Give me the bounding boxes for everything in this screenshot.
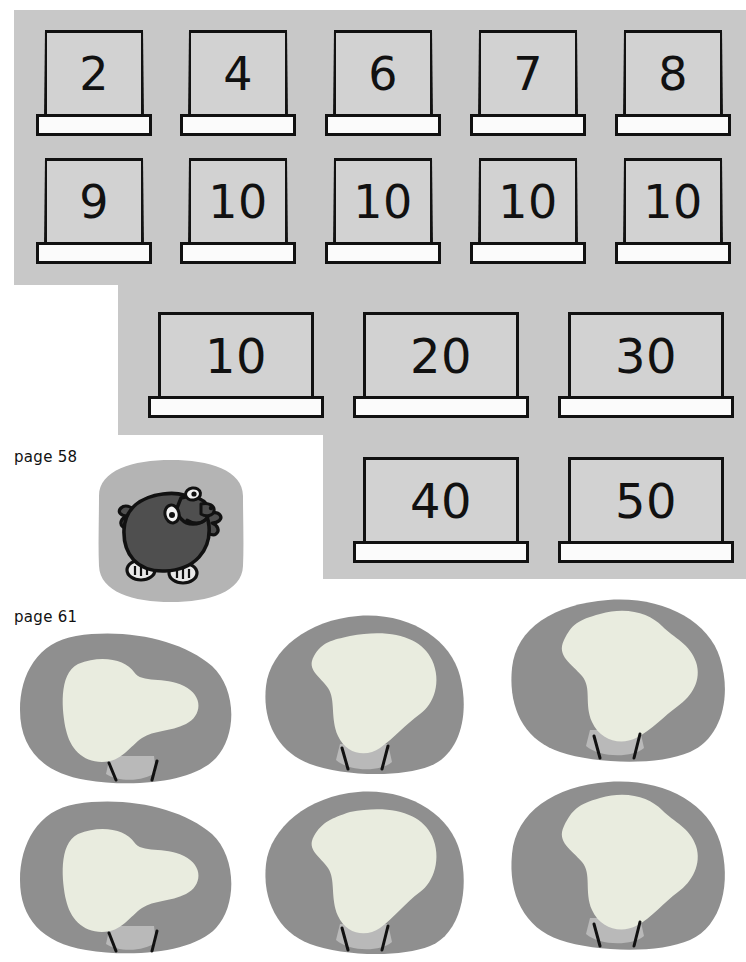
card-face: 4 [188, 30, 288, 118]
rock-card[interactable] [254, 612, 480, 777]
card-number: 10 [208, 179, 267, 225]
card-face: 10 [623, 158, 723, 246]
card-base [558, 541, 734, 563]
card-face: 9 [44, 158, 144, 246]
card-number: 6 [368, 51, 398, 97]
card-number: 4 [223, 51, 253, 97]
card-base [325, 242, 441, 264]
rock-card[interactable] [14, 796, 240, 956]
card-base [325, 114, 441, 136]
card-number: 2 [79, 51, 109, 97]
rock-card[interactable] [254, 786, 480, 958]
card-base [36, 242, 152, 264]
card-face: 30 [568, 312, 724, 400]
card-number: 8 [658, 51, 688, 97]
page-61-label: page 61 [14, 608, 77, 626]
card-face: 40 [363, 457, 519, 545]
mole-illustration[interactable] [97, 458, 245, 604]
card-face: 20 [363, 312, 519, 400]
card-base [180, 114, 296, 136]
card-base [36, 114, 152, 136]
card-face: 10 [333, 158, 433, 246]
worksheet-page: 2 4 6 7 8 9 10 [0, 0, 746, 962]
card-number: 10 [643, 179, 702, 225]
card-number: 10 [498, 179, 557, 225]
number-card[interactable]: 30 [558, 312, 734, 422]
number-card[interactable]: 7 [470, 30, 586, 140]
card-base [148, 396, 324, 418]
card-number: 10 [205, 332, 267, 380]
card-number: 50 [615, 477, 677, 525]
card-face: 8 [623, 30, 723, 118]
number-card[interactable]: 4 [180, 30, 296, 140]
card-face: 2 [44, 30, 144, 118]
number-card[interactable]: 8 [615, 30, 731, 140]
card-base [615, 114, 731, 136]
card-base [470, 242, 586, 264]
number-card[interactable]: 6 [325, 30, 441, 140]
card-base [470, 114, 586, 136]
card-face: 10 [478, 158, 578, 246]
card-face: 50 [568, 457, 724, 545]
card-face: 10 [158, 312, 314, 400]
card-base [353, 396, 529, 418]
number-card[interactable]: 50 [558, 457, 734, 567]
number-card[interactable]: 2 [36, 30, 152, 140]
page-58-label: page 58 [14, 448, 77, 466]
number-card[interactable]: 20 [353, 312, 529, 422]
card-base [180, 242, 296, 264]
card-number: 20 [410, 332, 472, 380]
rock-card[interactable] [500, 596, 740, 768]
number-card[interactable]: 40 [353, 457, 529, 567]
rock-card[interactable] [14, 630, 240, 785]
card-base [558, 396, 734, 418]
card-face: 10 [188, 158, 288, 246]
card-number: 40 [410, 477, 472, 525]
number-card[interactable]: 10 [470, 158, 586, 268]
card-number: 30 [615, 332, 677, 380]
card-number: 7 [513, 51, 543, 97]
card-number: 10 [353, 179, 412, 225]
number-card[interactable]: 10 [615, 158, 731, 268]
card-base [615, 242, 731, 264]
number-card[interactable]: 10 [325, 158, 441, 268]
number-card[interactable]: 10 [180, 158, 296, 268]
card-face: 6 [333, 30, 433, 118]
card-base [353, 541, 529, 563]
number-card[interactable]: 10 [148, 312, 324, 422]
number-card[interactable]: 9 [36, 158, 152, 268]
card-number: 9 [79, 179, 109, 225]
card-face: 7 [478, 30, 578, 118]
rock-card[interactable] [500, 776, 740, 956]
